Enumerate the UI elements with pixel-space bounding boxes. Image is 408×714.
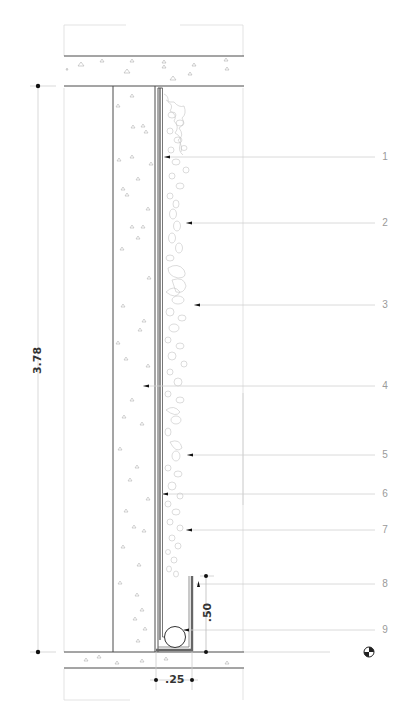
callout-8: 8	[379, 578, 391, 589]
bottom-slab	[64, 652, 244, 668]
drain-pipe	[165, 627, 186, 648]
leader-arrowheads	[143, 156, 200, 632]
callout-2: 2	[379, 217, 391, 228]
level-datum-icon	[364, 647, 374, 657]
callout-5: 5	[379, 449, 391, 460]
leader-lines	[143, 157, 375, 652]
callout-3: 3	[379, 299, 391, 310]
overall-height-label: 3.78	[31, 346, 44, 376]
concrete-wall	[113, 86, 155, 652]
vegetation-layer	[164, 94, 189, 577]
callout-6: 6	[379, 488, 391, 499]
callout-7: 7	[379, 524, 391, 535]
callout-9: 9	[379, 624, 391, 635]
callout-4: 4	[379, 380, 391, 391]
top-slab	[64, 56, 244, 86]
context-lines	[64, 25, 243, 700]
callout-1: 1	[379, 151, 391, 162]
channel-width-label: .25	[165, 673, 185, 686]
upstand-height-label: .50	[201, 601, 214, 625]
panel-layers	[156, 88, 192, 652]
